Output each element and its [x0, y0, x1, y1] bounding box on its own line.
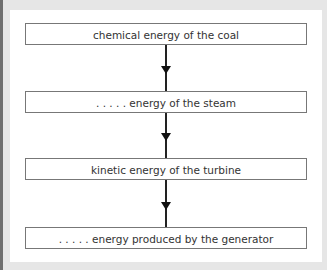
box-generator-energy: . . . . . energy produced by the generat… — [25, 227, 307, 249]
box-kinetic-energy: kinetic energy of the turbine — [25, 158, 307, 180]
arrow-head-2-icon — [161, 133, 171, 141]
box-chemical-energy: chemical energy of the coal — [25, 23, 307, 45]
arrow-head-1-icon — [161, 66, 171, 74]
arrow-head-3-icon — [161, 202, 171, 210]
left-border-stripe — [0, 0, 3, 270]
box-steam-energy: . . . . . energy of the steam — [25, 91, 307, 113]
